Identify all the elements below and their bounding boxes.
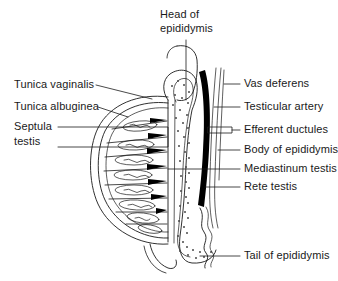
label-vas-deferens: Vas deferens xyxy=(244,77,309,90)
rete-testis-spikes-inner xyxy=(147,118,167,214)
epididymis-inner-edge xyxy=(174,78,194,257)
label-head-of-epididymis-line1: Head of xyxy=(160,8,199,21)
label-tail-of-epididymis: Tail of epididymis xyxy=(244,249,330,262)
head-lobe-left-edge xyxy=(167,46,177,58)
label-septula-testis-line2: testis xyxy=(14,135,40,148)
leader-tunica-vaginalis xyxy=(96,85,152,99)
label-body-of-epididymis: Body of epididymis xyxy=(244,143,338,156)
head-of-epididymis-lobe xyxy=(177,46,197,101)
label-tunica-vaginalis: Tunica vaginalis xyxy=(14,78,94,91)
label-testicular-artery: Testicular artery xyxy=(244,100,323,113)
label-head-of-epididymis-line2: epididymis xyxy=(160,22,213,35)
mediastinum-testis-band-2 xyxy=(174,100,175,243)
vas-deferens-duct-wavy xyxy=(200,208,208,268)
vas-deferens-band xyxy=(198,70,210,207)
label-mediastinum-testis: Mediastinum testis xyxy=(244,162,337,175)
testicular-artery-vessels xyxy=(210,68,224,228)
label-septula-testis-line1: Septula xyxy=(14,120,52,133)
tunica-vaginalis-flap-2 xyxy=(144,246,166,273)
label-efferent-ductules: Efferent ductules xyxy=(244,123,328,136)
tunica-vaginalis-flap xyxy=(150,244,177,269)
label-tunica-albuginea: Tunica albuginea xyxy=(14,100,99,113)
label-rete-testis: Rete testis xyxy=(244,180,297,193)
